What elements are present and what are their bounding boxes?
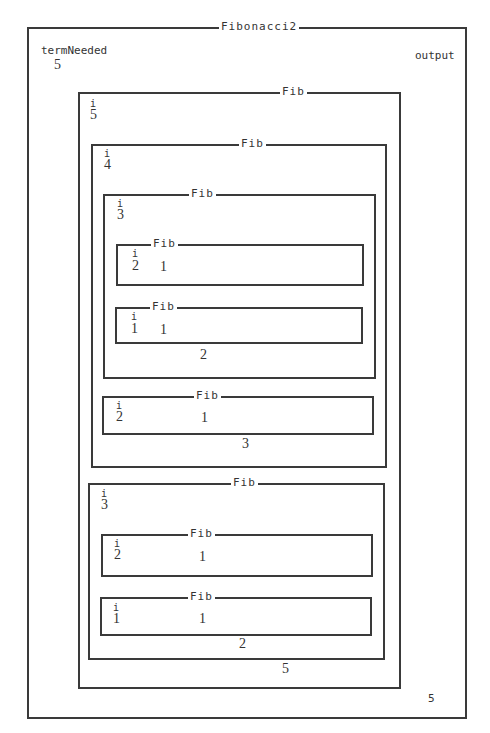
frame-title: Fib [239, 137, 266, 151]
var-value-i: 3 [101, 498, 108, 512]
frame-result: 1 [199, 612, 206, 626]
parameter-label: termNeeded [41, 45, 107, 57]
fib-frame-i2: Fib [116, 244, 364, 286]
var-value-i: 3 [117, 208, 124, 222]
frame-title: Fib [231, 476, 258, 490]
output-label: output [415, 50, 455, 62]
var-value-i: 2 [132, 259, 139, 273]
frame-title: Fib [280, 85, 307, 99]
var-value-i: 5 [90, 108, 97, 122]
frame-title: Fib [151, 237, 178, 251]
frame-result: 2 [200, 348, 207, 362]
frame-result: 1 [160, 260, 167, 274]
var-value-i: 1 [131, 322, 138, 336]
output-value: 5 [428, 693, 435, 705]
frame-result: 1 [160, 323, 167, 337]
frame-result: 3 [242, 437, 249, 451]
frame-result: 1 [201, 411, 208, 425]
frame-title: Fib [194, 389, 221, 403]
var-value-i: 1 [113, 612, 120, 626]
frame-title: Fib [188, 590, 215, 604]
fib-frame-i2: Fib [102, 396, 374, 435]
frame-title: Fib [189, 187, 216, 201]
frame-title: Fib [150, 300, 177, 314]
fib-frame-i1: Fib [100, 597, 372, 636]
frame-title: Fibonacci2 [219, 20, 299, 34]
frame-title: Fib [188, 527, 215, 541]
frame-result: 1 [199, 550, 206, 564]
frame-result: 2 [239, 637, 246, 651]
fib-frame-i2: Fib [101, 534, 373, 577]
parameter-value: 5 [54, 58, 61, 72]
var-value-i: 2 [114, 548, 121, 562]
fib-frame-i1: Fib [115, 307, 363, 344]
frame-result: 5 [282, 662, 289, 676]
fib-frame-i3: Fib [103, 194, 376, 379]
var-value-i: 2 [116, 410, 123, 424]
var-value-i: 4 [104, 158, 111, 172]
